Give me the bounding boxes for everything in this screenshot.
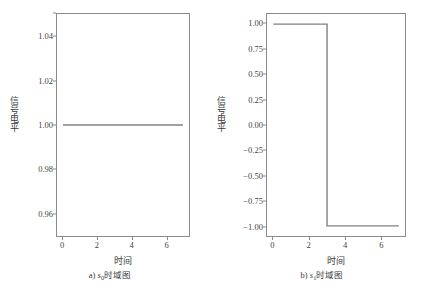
xtick-mark [132,237,133,240]
ytick-mark [263,74,266,75]
ytick-label: 0.50 [248,70,263,79]
ytick-mark [263,201,266,202]
ytick-mark [263,23,266,24]
ytick-mark [53,13,56,14]
ytick-label: 1.04 [38,32,53,41]
ytick-mark [53,36,56,37]
ytick-mark [263,175,266,176]
ytick-label: 0.75 [248,44,263,53]
xtick-label: 0 [60,241,64,250]
ytick-label: 0.00 [248,121,263,130]
ytick-mark [263,48,266,49]
ytick-label: 1.00 [38,121,53,130]
xtick-mark [345,237,346,240]
xtick-label: 0 [270,241,274,250]
caption-subscript-a: 0 [101,274,104,281]
ytick-label: −0.25 [243,146,263,155]
panel-caption-a: a) s0时域图 [20,268,200,280]
xtick-labels-a: 0246 [56,241,190,255]
xtick-label: 2 [307,241,311,250]
ytick-mark [53,80,56,81]
ytick-mark [263,99,266,100]
xaxis-title-a: 时间 [56,254,190,267]
ytick-label: 0.98 [38,165,53,174]
ytick-mark [53,213,56,214]
yaxis-title-b: 信号电平 [216,96,225,132]
plot-area-b [266,13,406,237]
xtick-label: 4 [130,241,134,250]
ytick-label: 1.02 [38,76,53,85]
caption-prefix-b: b) [301,270,310,280]
xtick-mark [272,237,273,240]
caption-prefix-a: a) [89,270,98,280]
ytick-label: 0.96 [38,209,53,218]
signal-line-b [267,14,405,236]
caption-subscript-b: 1 [313,274,316,281]
xtick-mark [167,237,168,240]
ytick-label: 0.25 [248,95,263,104]
panel-b: 1.000.750.500.250.00−0.25−0.50−0.75−1.00… [212,0,424,293]
xtick-label: 6 [164,241,168,250]
xtick-mark [381,237,382,240]
ytick-mark [53,125,56,126]
panel-caption-b: b) s1时域图 [232,268,412,280]
ytick-mark [263,150,266,151]
xaxis-title-b: 时间 [266,254,406,267]
xtick-label: 6 [379,241,383,250]
ytick-label: −0.50 [243,172,263,181]
caption-suffix-b: 时域图 [316,270,343,280]
xtick-label: 2 [95,241,99,250]
caption-suffix-a: 时域图 [104,270,131,280]
xtick-labels-b: 0246 [266,241,406,255]
ytick-label: −0.75 [243,197,263,206]
xtick-mark [62,237,63,240]
ytick-mark [263,125,266,126]
ytick-mark [53,169,56,170]
ytick-label: −1.00 [243,223,263,232]
yaxis-title-a: 信号电平 [9,96,18,132]
xtick-mark [309,237,310,240]
figure-container: 1.041.021.000.980.96 0246 时间 信号电平 a) s0时… [0,0,424,293]
panel-a: 1.041.021.000.980.96 0246 时间 信号电平 a) s0时… [0,0,212,293]
xtick-mark [97,237,98,240]
xtick-label: 4 [343,241,347,250]
ytick-label: 1.00 [248,19,263,28]
ytick-mark [263,226,266,227]
